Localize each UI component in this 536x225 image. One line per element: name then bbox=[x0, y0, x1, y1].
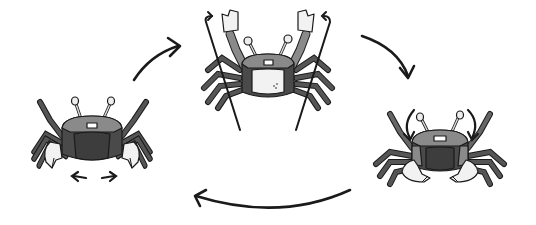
crab-stage-3 bbox=[376, 110, 504, 184]
cycle-arrow-1-to-2 bbox=[134, 38, 180, 80]
cycle-arrow-3-to-1 bbox=[195, 190, 350, 208]
crab-stage-1 bbox=[34, 97, 150, 181]
crab-stage-2 bbox=[204, 10, 332, 130]
cycle-arrow-2-to-3 bbox=[362, 36, 414, 78]
left-claw bbox=[45, 142, 62, 168]
crab-display-cycle-figure bbox=[0, 0, 536, 225]
lateral-motion-arrows bbox=[72, 172, 116, 181]
right-claw bbox=[122, 142, 139, 168]
